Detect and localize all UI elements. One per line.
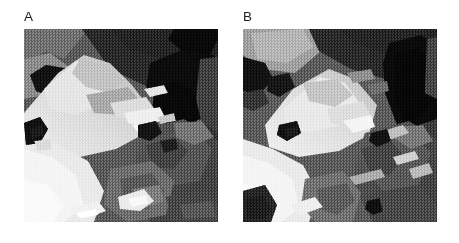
panel-a-micrograph-svg xyxy=(24,29,218,222)
figure-root: A xyxy=(0,0,459,243)
panel-a-micrograph xyxy=(24,29,218,222)
panel-b-label: B xyxy=(243,10,252,24)
panel-b-micrograph xyxy=(243,29,437,222)
panel-a-label: A xyxy=(24,10,33,24)
panel-b-micrograph-svg xyxy=(243,29,437,222)
